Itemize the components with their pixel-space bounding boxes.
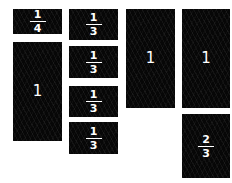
block-one-quarter: 1 4 bbox=[13, 9, 62, 34]
numerator: 1 bbox=[34, 9, 42, 20]
block-two-thirds: 2 3 bbox=[182, 114, 230, 178]
block-one-third-3: 1 3 bbox=[69, 86, 118, 117]
fraction-one-third: 1 3 bbox=[86, 50, 102, 75]
denominator: 3 bbox=[202, 148, 210, 159]
block-whole-3: 1 bbox=[182, 9, 230, 108]
fraction-one-third: 1 3 bbox=[86, 89, 102, 114]
block-one-third-4: 1 3 bbox=[69, 122, 118, 154]
denominator: 3 bbox=[90, 64, 98, 75]
numerator: 1 bbox=[90, 12, 98, 23]
denominator: 3 bbox=[90, 103, 98, 114]
numerator: 1 bbox=[90, 126, 98, 137]
fraction-one-third: 1 3 bbox=[86, 126, 102, 151]
block-whole-1: 1 bbox=[13, 42, 62, 141]
numerator: 1 bbox=[90, 50, 98, 61]
denominator: 3 bbox=[90, 140, 98, 151]
numerator: 2 bbox=[202, 134, 210, 145]
numerator: 1 bbox=[90, 89, 98, 100]
block-whole-2: 1 bbox=[126, 9, 175, 108]
block-one-third-1: 1 3 bbox=[69, 9, 118, 40]
whole-value: 1 bbox=[201, 51, 211, 66]
denominator: 4 bbox=[34, 23, 42, 34]
fraction-one-third: 1 3 bbox=[86, 12, 102, 37]
whole-value: 1 bbox=[146, 51, 156, 66]
whole-value: 1 bbox=[33, 84, 43, 99]
fraction-two-thirds: 2 3 bbox=[198, 134, 214, 159]
fraction-one-quarter: 1 4 bbox=[30, 9, 46, 34]
block-one-third-2: 1 3 bbox=[69, 46, 118, 78]
denominator: 3 bbox=[90, 26, 98, 37]
